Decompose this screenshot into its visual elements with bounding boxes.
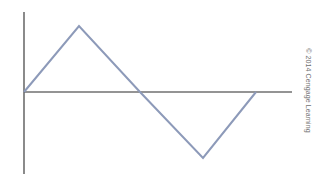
waveform-figure: © 2014 Cengage Learning	[0, 0, 316, 184]
waveform-plot	[0, 0, 316, 184]
